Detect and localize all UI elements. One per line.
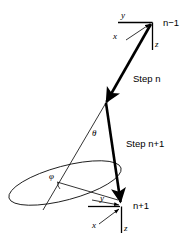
diagram-svg (0, 0, 194, 244)
phi-radius-line (57, 182, 118, 200)
step-n-label: Step n (133, 74, 160, 84)
phi-angle-label: φ (49, 172, 54, 181)
step-n-plus-1-vector (106, 103, 121, 202)
azimuth-ellipse (5, 152, 126, 215)
step-n-plus-1-label: Step n+1 (126, 139, 164, 149)
top-y-axis-label: y (121, 11, 125, 20)
bottom-y-pointer-line (92, 200, 119, 205)
top-z-axis-label: z (155, 40, 159, 49)
node-n-plus-1-label: n+1 (133, 201, 149, 211)
bottom-x-axis-line (99, 209, 119, 224)
bottom-z-axis-label: z (124, 224, 128, 233)
frame-n-minus-1 (118, 23, 153, 51)
figure-canvas: y x z n−1 Step n Step n+1 θ φ y x z n+1 (0, 0, 194, 244)
theta-angle-label: θ (92, 129, 96, 138)
bottom-x-axis-label: x (92, 221, 96, 230)
node-n-minus-1-label: n−1 (163, 18, 179, 28)
top-x-axis-label: x (113, 32, 117, 41)
bottom-y-axis-label: y (100, 194, 104, 203)
